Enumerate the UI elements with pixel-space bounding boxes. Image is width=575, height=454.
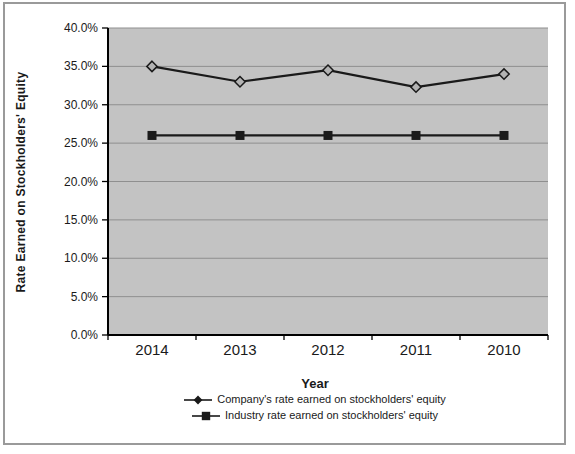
- x-tick-label: 2012: [284, 341, 372, 359]
- plot-area: [108, 28, 548, 335]
- y-tick-label: 10.0%: [40, 250, 98, 266]
- x-tick-label: 2013: [196, 341, 284, 359]
- legend-label-company: Company's rate earned on stockholders' e…: [217, 392, 446, 407]
- y-tick-label: 25.0%: [40, 135, 98, 151]
- y-axis-title: Rate Earned on Stockholders' Equity: [14, 29, 30, 336]
- legend-label-industry: Industry rate earned on stockholders' eq…: [225, 408, 438, 423]
- chart-plot-svg: [108, 28, 548, 335]
- square-marker-icon: [192, 410, 220, 422]
- y-tick-label: 15.0%: [40, 212, 98, 228]
- legend: Company's rate earned on stockholders' e…: [90, 392, 540, 423]
- y-tick-label: 30.0%: [40, 97, 98, 113]
- legend-item-company: Company's rate earned on stockholders' e…: [184, 392, 446, 407]
- legend-item-industry: Industry rate earned on stockholders' eq…: [192, 408, 438, 423]
- x-tick-label: 2014: [108, 341, 196, 359]
- x-tick-label: 2011: [372, 341, 460, 359]
- x-tick-label: 2010: [460, 341, 548, 359]
- y-tick-label: 40.0%: [40, 20, 98, 36]
- chart-canvas: Rate Earned on Stockholders' Equity 40.0…: [0, 0, 575, 454]
- diamond-marker-icon: [184, 394, 212, 406]
- y-tick-label: 20.0%: [40, 174, 98, 190]
- x-axis-title: Year: [90, 376, 540, 392]
- y-tick-label: 5.0%: [40, 289, 98, 305]
- y-tick-label: 35.0%: [40, 58, 98, 74]
- y-tick-label: 0.0%: [40, 327, 98, 343]
